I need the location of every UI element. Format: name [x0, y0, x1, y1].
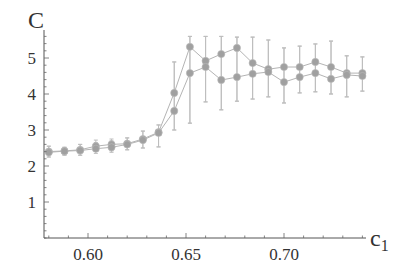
data-point — [45, 149, 52, 156]
data-point — [186, 43, 193, 50]
data-point — [61, 148, 68, 155]
data-point — [139, 136, 146, 143]
data-point — [265, 68, 272, 75]
x-tick-label: 0.65 — [171, 245, 201, 264]
y-tick-label: 2 — [28, 157, 37, 176]
x-tick-label: 0.70 — [269, 245, 299, 264]
data-point — [343, 71, 350, 78]
data-point — [359, 72, 366, 79]
y-tick-label: 1 — [28, 193, 37, 212]
data-point — [233, 73, 240, 80]
chart-canvas: 12345 0.600.650.70 C c1 — [0, 0, 411, 275]
data-point — [249, 70, 256, 77]
data-point — [280, 79, 287, 86]
y-tick-label: 3 — [28, 121, 37, 140]
y-ticks: 12345 — [28, 36, 50, 238]
data-point — [202, 63, 209, 70]
x-axis-label: c1 — [370, 225, 389, 254]
data-point — [296, 73, 303, 80]
data-point — [218, 76, 225, 83]
data-point — [186, 70, 193, 77]
data-point — [296, 63, 303, 70]
data-point — [327, 75, 334, 82]
data-point — [312, 58, 319, 65]
y-tick-label: 4 — [28, 85, 37, 104]
y-axis-label: C — [28, 7, 44, 33]
x-axis-label-subscript: 1 — [381, 237, 389, 254]
data-point — [124, 141, 131, 148]
data-point — [171, 107, 178, 114]
data-point — [171, 89, 178, 96]
data-point — [77, 147, 84, 154]
data-point — [92, 145, 99, 152]
data-point — [218, 50, 225, 57]
x-axis-label-base: c — [370, 225, 381, 251]
data-point — [327, 63, 334, 70]
data-point — [249, 59, 256, 66]
data-point — [108, 144, 115, 151]
data-point — [233, 44, 240, 51]
data-point — [312, 70, 319, 77]
error-bars — [47, 36, 365, 157]
y-tick-label: 5 — [28, 49, 37, 68]
data-point — [280, 63, 287, 70]
x-tick-label: 0.60 — [73, 245, 103, 264]
data-point — [155, 129, 162, 136]
